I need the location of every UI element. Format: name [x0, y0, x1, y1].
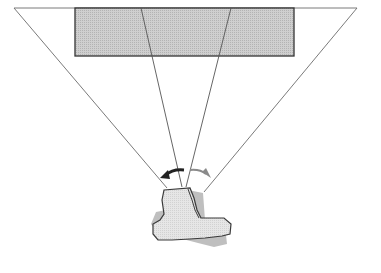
display-panel — [75, 8, 294, 56]
head-rotation-arrows — [160, 168, 211, 179]
person-top-view — [153, 188, 231, 240]
diagram-canvas — [0, 0, 381, 273]
